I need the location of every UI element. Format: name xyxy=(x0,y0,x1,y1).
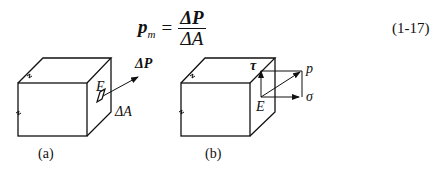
cube-a xyxy=(16,58,138,136)
label-E-a: E xyxy=(96,79,105,95)
label-dP: ΔP xyxy=(135,56,152,72)
label-tau: τ xyxy=(250,58,256,74)
cube-b xyxy=(179,58,302,136)
caption-a: (a) xyxy=(38,146,54,162)
label-E-b: E xyxy=(256,99,265,115)
label-sigma: σ xyxy=(306,89,313,105)
caption-b: (b) xyxy=(205,146,221,162)
label-dA: ΔA xyxy=(115,104,132,120)
label-p: p xyxy=(306,61,313,77)
